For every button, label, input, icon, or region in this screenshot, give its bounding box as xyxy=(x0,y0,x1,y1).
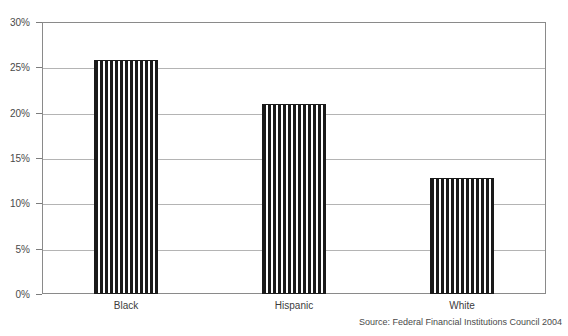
bars-layer xyxy=(42,22,546,294)
bar-hispanic xyxy=(262,104,326,294)
bar-white xyxy=(430,178,494,294)
bar-black xyxy=(94,60,158,294)
y-axis-tick-marks xyxy=(0,22,48,294)
x-axis: BlackHispanicWhite xyxy=(42,300,546,316)
x-tick-label: Black xyxy=(114,300,138,311)
chart-title xyxy=(0,0,568,5)
bar-chart-figure: 0%5%10%15%20%25%30% BlackHispanicWhite S… xyxy=(0,0,568,336)
source-note: Source: Federal Financial Institutions C… xyxy=(359,317,562,327)
x-tick-label: Hispanic xyxy=(275,300,313,311)
x-tick-label: White xyxy=(449,300,475,311)
y-tick-mark xyxy=(36,294,42,295)
